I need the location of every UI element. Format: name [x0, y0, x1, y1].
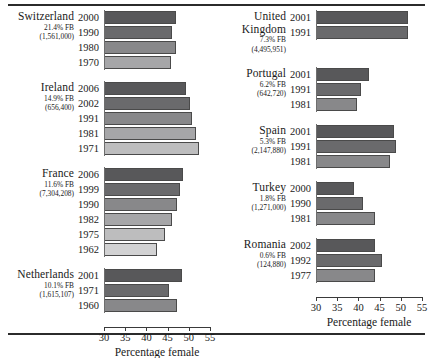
bar-row: 1991	[290, 82, 432, 97]
country-name: France	[0, 167, 74, 180]
bar-row: 2006	[78, 167, 216, 182]
foreign-born-count: (1,615,107)	[0, 290, 74, 300]
bar-row: 1962	[78, 242, 216, 257]
country-name: Netherlands	[0, 268, 74, 281]
year-label: 1990	[78, 25, 104, 40]
bar-track	[316, 211, 432, 226]
chart-panel-right: United Kingdom7.3% FB(4,495,951)20011991…	[216, 10, 432, 328]
x-axis-tick-label: 55	[411, 302, 433, 314]
bar-track	[104, 197, 216, 212]
country-name: Switzerland	[0, 10, 74, 23]
year-label: 1992	[290, 253, 316, 268]
year-label: 1960	[78, 298, 104, 313]
year-label: 2001	[78, 268, 104, 283]
bar	[104, 127, 196, 140]
year-label: 1991	[290, 139, 316, 154]
year-label: 2002	[290, 238, 316, 253]
group-list-right: United Kingdom7.3% FB(4,495,951)20011991…	[216, 10, 432, 295]
bar-track	[104, 126, 216, 141]
bar	[316, 83, 361, 96]
bar	[104, 142, 199, 155]
bar-track	[104, 283, 216, 298]
bar	[316, 212, 375, 225]
bar-row: 1980	[78, 40, 216, 55]
bar-rows: 20011991	[290, 10, 432, 40]
foreign-born-count: (1,561,000)	[0, 32, 74, 42]
bar	[104, 168, 183, 181]
year-label: 1971	[78, 141, 104, 156]
x-axis-title: Percentage female	[316, 316, 422, 328]
bar	[104, 269, 182, 282]
bar-rows: 200219921977	[290, 238, 432, 283]
bar-track	[104, 268, 216, 283]
chart-panel-left: Switzerland21.4% FB(1,561,000)2000199019…	[0, 10, 216, 328]
bar	[104, 97, 190, 110]
bar	[104, 183, 180, 196]
group-baseline	[316, 181, 317, 226]
country-name: Spain	[216, 124, 286, 137]
bar-row: 1981	[290, 97, 432, 112]
group-baseline	[104, 10, 105, 70]
bar	[316, 182, 354, 195]
bar-track	[104, 212, 216, 227]
foreign-born-percent: 21.4% FB	[0, 23, 74, 33]
x-axis-line	[104, 327, 210, 328]
bar	[104, 228, 165, 241]
bar-row: 1991	[78, 111, 216, 126]
x-axis-tick	[380, 297, 381, 301]
bar	[316, 254, 382, 267]
x-axis-tick-label: 45	[157, 332, 179, 344]
bar-track	[316, 181, 432, 196]
bar	[316, 197, 363, 210]
bar-track	[104, 81, 216, 96]
country-label-block: Switzerland21.4% FB(1,561,000)	[0, 10, 78, 42]
bar-track	[104, 111, 216, 126]
group-baseline	[104, 81, 105, 156]
x-axis-tick	[316, 297, 317, 301]
bar-track	[316, 67, 432, 82]
x-axis-tick-label: 50	[390, 302, 412, 314]
year-label: 1999	[78, 182, 104, 197]
bar-row: 1990	[78, 25, 216, 40]
bar	[104, 112, 192, 125]
bar-rows: 2000199019801970	[78, 10, 216, 70]
bar-row: 1971	[78, 141, 216, 156]
year-label: 1980	[78, 40, 104, 55]
year-label: 2000	[290, 181, 316, 196]
bar-row: 2002	[78, 96, 216, 111]
foreign-born-count: (2,147,880)	[216, 146, 286, 156]
foreign-born-count: (642,720)	[216, 89, 286, 99]
bar-track	[104, 141, 216, 156]
bar-track	[104, 182, 216, 197]
bar-track	[104, 25, 216, 40]
bar-track	[104, 40, 216, 55]
country-label-block: Portugal6.2% FB(642,720)	[216, 67, 290, 99]
bar-row: 1992	[290, 253, 432, 268]
bar-row: 1999	[78, 182, 216, 197]
bar-track	[316, 154, 432, 169]
country-name: Romania	[216, 238, 286, 251]
x-axis-tick	[104, 327, 105, 331]
foreign-born-percent: 5.3% FB	[216, 137, 286, 147]
country-name: Ireland	[0, 81, 74, 94]
bar-rows: 200019901981	[290, 181, 432, 226]
country-name: United Kingdom	[216, 10, 286, 35]
year-label: 2006	[78, 167, 104, 182]
x-axis-tick	[422, 297, 423, 301]
bar-row: 2001	[290, 10, 432, 25]
bar-track	[104, 10, 216, 25]
country-name: Turkey	[216, 181, 286, 194]
bar-row: 2000	[290, 181, 432, 196]
country-group: Turkey1.8% FB(1,271,000)200019901981	[216, 181, 432, 227]
foreign-born-percent: 6.2% FB	[216, 80, 286, 90]
bar-track	[316, 124, 432, 139]
country-group: Spain5.3% FB(2,147,880)200119911981	[216, 124, 432, 170]
bar	[104, 284, 169, 297]
bar-row: 1981	[290, 154, 432, 169]
bar-track	[316, 10, 432, 25]
foreign-born-percent: 11.6% FB	[0, 180, 74, 190]
bar-row: 1990	[290, 196, 432, 211]
country-name: Portugal	[216, 67, 286, 80]
year-label: 2006	[78, 81, 104, 96]
